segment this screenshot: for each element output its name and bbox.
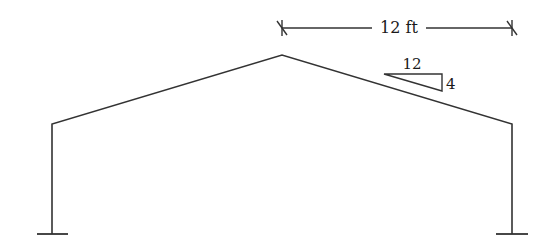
slope-run-label: 12: [402, 55, 421, 73]
slope-rise-label: 4: [446, 75, 456, 93]
gable-frame-diagram: 12 ft 12 4: [0, 0, 556, 246]
frame-members: [52, 55, 512, 234]
dimension-label: 12 ft: [380, 18, 418, 37]
frame-outline: [52, 55, 512, 234]
